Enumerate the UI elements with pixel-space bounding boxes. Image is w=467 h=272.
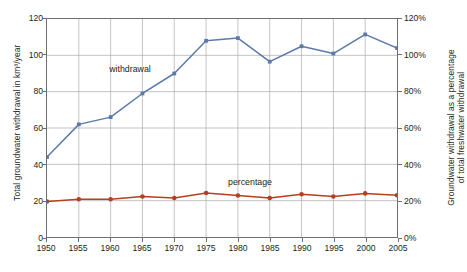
x-axis-tick-mark (46, 238, 47, 242)
series-label-percentage: percentage (228, 177, 272, 187)
data-point-percentage (331, 194, 336, 199)
y-axis-tick-mark (398, 201, 402, 202)
x-axis-tick-mark (398, 238, 399, 242)
x-axis-tick-label: 2005 (388, 243, 407, 253)
y-axis-tick-mark (42, 18, 46, 19)
y-axis-left-tick-label: 120 (3, 13, 43, 23)
right-axis-title-line1: Groundwater withdrawal as a percentage (446, 49, 456, 206)
y-axis-left-tick-label: 0 (3, 233, 43, 243)
y-axis-tick-mark (42, 164, 46, 165)
y-axis-left-tick-label: 40 (3, 160, 43, 170)
y-axis-tick-mark (398, 54, 402, 55)
data-point-withdrawal (363, 33, 367, 37)
x-axis-tick-label: 1975 (196, 243, 215, 253)
x-axis-tick-mark (110, 238, 111, 242)
y-axis-tick-mark (398, 128, 402, 129)
data-point-withdrawal (77, 122, 81, 126)
x-axis-tick-label: 1950 (36, 243, 55, 253)
x-axis-tick-mark (334, 238, 335, 242)
right-axis-title-line2: of total freshwater withdrawal (457, 18, 467, 238)
x-axis-tick-label: 1980 (228, 243, 247, 253)
x-axis-tick-label: 1955 (68, 243, 87, 253)
y-axis-left-tick-label: 100 (3, 50, 43, 60)
y-axis-tick-mark (42, 201, 46, 202)
y-axis-tick-mark (398, 18, 402, 19)
x-axis-tick-mark (78, 238, 79, 242)
data-point-withdrawal (204, 39, 208, 43)
x-axis-tick-label: 1965 (132, 243, 151, 253)
data-point-percentage (47, 199, 49, 204)
y-axis-tick-mark (398, 164, 402, 165)
y-axis-right-tick-label: 80% (404, 86, 444, 96)
x-axis-tick-mark (302, 238, 303, 242)
x-axis-tick-label: 1970 (164, 243, 183, 253)
data-point-percentage (236, 193, 241, 198)
data-point-percentage (395, 193, 397, 198)
data-point-percentage (363, 191, 368, 196)
data-point-withdrawal (268, 60, 272, 64)
y-axis-left-tick-label: 20 (3, 196, 43, 206)
data-point-withdrawal (395, 46, 397, 50)
x-axis-tick-mark (174, 238, 175, 242)
series-label-withdrawal: withdrawal (109, 64, 151, 74)
x-axis-tick-label: 2000 (356, 243, 375, 253)
x-axis-tick-mark (366, 238, 367, 242)
x-axis-tick-mark (238, 238, 239, 242)
series-line-percentage (47, 193, 397, 202)
data-point-withdrawal (109, 115, 113, 119)
y-axis-right-tick-label: 60% (404, 123, 444, 133)
x-axis-tick-label: 1995 (324, 243, 343, 253)
y-axis-right-tick-label: 20% (404, 196, 444, 206)
x-axis-tick-label: 1985 (260, 243, 279, 253)
x-axis-tick-mark (206, 238, 207, 242)
y-axis-tick-mark (398, 238, 402, 239)
plot-area (46, 18, 398, 238)
data-point-withdrawal (47, 155, 49, 159)
x-axis-tick-mark (142, 238, 143, 242)
y-axis-left-tick-label: 60 (3, 123, 43, 133)
y-axis-right-tick-label: 120% (404, 13, 444, 23)
data-point-percentage (77, 197, 82, 202)
data-point-percentage (172, 196, 177, 201)
data-point-percentage (108, 197, 113, 202)
data-point-percentage (204, 191, 209, 196)
y-axis-tick-mark (42, 54, 46, 55)
right-axis-title: Groundwater withdrawal as a percentage o… (447, 18, 466, 238)
data-point-withdrawal (172, 72, 176, 76)
y-axis-tick-mark (42, 91, 46, 92)
data-point-percentage (299, 192, 304, 197)
x-axis-tick-label: 1990 (292, 243, 311, 253)
y-axis-tick-mark (42, 128, 46, 129)
y-axis-left-tick-label: 80 (3, 86, 43, 96)
y-axis-tick-mark (398, 91, 402, 92)
data-point-withdrawal (331, 52, 335, 56)
x-axis-tick-label: 1960 (100, 243, 119, 253)
data-point-percentage (140, 194, 145, 199)
gridlines (47, 19, 397, 237)
y-axis-right-tick-label: 0% (404, 233, 444, 243)
grid-and-series-layer (47, 19, 397, 237)
x-axis-tick-mark (270, 238, 271, 242)
data-point-percentage (267, 196, 272, 201)
y-axis-right-tick-label: 100% (404, 50, 444, 60)
series-line-withdrawal (47, 34, 397, 157)
data-point-withdrawal (236, 36, 240, 40)
series-layer (47, 33, 397, 204)
y-axis-right-tick-label: 40% (404, 160, 444, 170)
data-point-withdrawal (300, 44, 304, 48)
data-point-withdrawal (141, 92, 145, 96)
